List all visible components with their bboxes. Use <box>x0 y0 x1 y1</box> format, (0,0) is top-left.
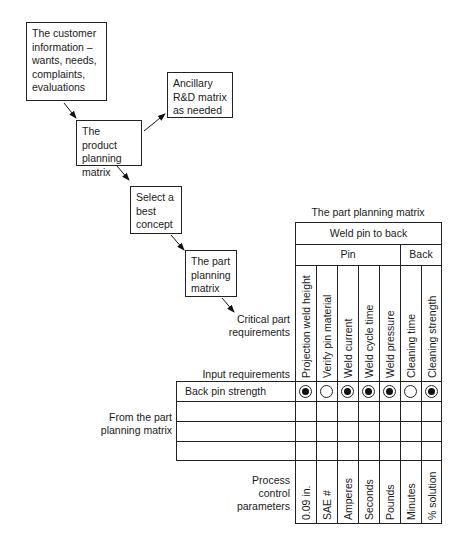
customer-information-box: The customer information – wants, needs,… <box>26 22 107 101</box>
grid-cell <box>400 441 422 461</box>
arrow-product-to-concept <box>117 166 129 180</box>
from-part-matrix-label: From the part planning matrix <box>90 411 172 437</box>
group-header-pin: Pin <box>295 244 401 266</box>
customer-information-text: The customer information – wants, needs,… <box>32 27 97 93</box>
arrow-concept-to-part <box>171 235 184 250</box>
row-label-2 <box>176 421 296 442</box>
grid-cell <box>379 381 401 402</box>
critical-part-requirements-label: Critical part requirements <box>228 313 290 339</box>
grid-cell <box>358 441 380 461</box>
grid-cell <box>421 401 442 422</box>
grid-cell <box>400 401 422 422</box>
grid-cell <box>421 421 442 442</box>
select-concept-box: Select a best concept <box>130 186 182 234</box>
strong-relationship-icon <box>425 385 438 398</box>
process-parameter-3: Seconds <box>358 460 380 524</box>
grid-cell <box>379 421 401 442</box>
grid-cell <box>316 381 338 402</box>
product-planning-matrix-box: The product planning matrix <box>76 120 142 166</box>
grid-cell <box>421 441 442 461</box>
arrow-part-to-critical <box>222 298 234 312</box>
grid-cell <box>316 441 338 461</box>
column-header-5: Cleaning time <box>400 265 422 382</box>
grid-cell <box>295 381 317 402</box>
grid-cell <box>400 381 422 402</box>
grid-cell <box>358 381 380 402</box>
process-parameter-5: Minutes <box>400 460 422 524</box>
process-parameter-1: SAE # <box>316 460 338 524</box>
strong-relationship-icon <box>362 385 375 398</box>
grid-cell <box>358 421 380 442</box>
row-label-0: Back pin strength <box>176 381 296 402</box>
grid-cell <box>358 401 380 422</box>
strong-relationship-icon <box>299 385 312 398</box>
process-parameter-4: Pounds <box>379 460 401 524</box>
column-header-3: Weld cycle time <box>358 265 380 382</box>
column-header-1: Verify pin material <box>316 265 338 382</box>
arrow-customer-to-product <box>64 103 76 118</box>
column-header-4: Weld pressure <box>379 265 401 382</box>
arrow-product-to-ancillary <box>144 114 165 131</box>
input-requirements-label: Input requirements <box>170 368 290 381</box>
process-parameter-2: Amperes <box>337 460 359 524</box>
grid-cell <box>337 421 359 442</box>
column-header-0: Projection weld height <box>295 265 317 382</box>
process-parameter-0: 0.09 in. <box>295 460 317 524</box>
grid-cell <box>421 381 442 402</box>
part-planning-matrix-text: The part planning matrix <box>191 255 231 294</box>
ancillary-matrix-box: Ancillary R&D matrix as needed <box>167 72 233 118</box>
grid-cell <box>379 401 401 422</box>
grid-cell <box>295 401 317 422</box>
part-planning-matrix-box: The part planning matrix <box>185 250 237 297</box>
weak-relationship-icon <box>320 385 333 398</box>
select-concept-text: Select a best concept <box>136 191 174 230</box>
column-header-2: Weld current <box>337 265 359 382</box>
grid-cell <box>337 401 359 422</box>
weak-relationship-icon <box>404 385 417 398</box>
strong-relationship-icon <box>383 385 396 398</box>
grid-cell <box>295 421 317 442</box>
grid-cell <box>337 441 359 461</box>
row-label-3 <box>176 441 296 461</box>
grid-cell <box>316 421 338 442</box>
matrix-title: The part planning matrix <box>295 206 441 218</box>
strong-relationship-icon <box>341 385 354 398</box>
process-parameter-6: % solution <box>421 460 442 524</box>
grid-cell <box>295 441 317 461</box>
grid-cell <box>316 401 338 422</box>
weld-pin-to-back-header: Weld pin to back <box>295 222 442 245</box>
grid-cell <box>337 381 359 402</box>
grid-cell <box>379 441 401 461</box>
column-header-6: Cleaning strength <box>421 265 442 382</box>
process-control-parameters-label: Process control parameters <box>220 474 290 513</box>
grid-cell <box>400 421 422 442</box>
ancillary-matrix-text: Ancillary R&D matrix as needed <box>173 77 227 116</box>
product-planning-matrix-text: The product planning matrix <box>82 125 122 178</box>
row-label-1 <box>176 401 296 422</box>
group-header-back: Back <box>400 244 442 266</box>
